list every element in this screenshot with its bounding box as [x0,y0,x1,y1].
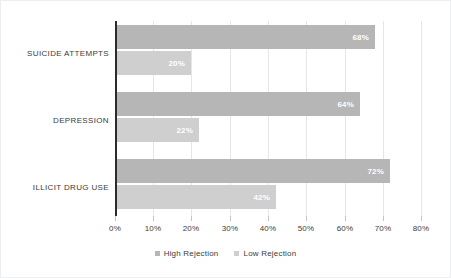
x-axis: 0% 10% 20% 30% 40% 50% 60% 70% 80% [115,216,421,238]
xtick-label-70: 70% [375,224,392,233]
xtick-label-60: 60% [337,224,354,233]
category-label-depression: DEPRESSION [53,116,109,125]
bar-low-rejection-depression: 22% [115,118,199,142]
legend-item-low-rejection: Low Rejection [234,249,296,258]
y-axis-line [115,21,117,216]
legend: High Rejection Low Rejection [1,249,450,258]
bar-high-rejection-suicide-attempts: 68% [115,25,375,49]
xtick-label-20: 20% [183,224,200,233]
bar-high-rejection-depression: 64% [115,92,360,116]
bar-low-rejection-illicit-drug-use: 42% [115,185,276,209]
xtick-label-80: 80% [413,224,430,233]
category-axis: SUICIDE ATTEMPTS DEPRESSION ILLICIT DRUG… [1,1,109,278]
gridline-70 [383,21,384,216]
category-label-illicit-drug-use: ILLICIT DRUG USE [33,183,109,192]
legend-item-high-rejection: High Rejection [155,249,219,258]
gridline-60 [345,21,346,216]
gridline-80 [421,21,422,216]
xtick-label-30: 30% [222,224,239,233]
bar-high-rejection-illicit-drug-use: 72% [115,159,390,183]
xtick-label-0: 0% [109,224,121,233]
bar-value-label: 68% [352,33,375,42]
bar-value-label: 64% [337,100,360,109]
bar-chart: SUICIDE ATTEMPTS DEPRESSION ILLICIT DRUG… [0,0,451,278]
bar-value-label: 72% [367,167,390,176]
category-label-suicide-attempts: SUICIDE ATTEMPTS [27,49,109,58]
xtick-label-10: 10% [145,224,162,233]
bar-value-label: 22% [176,126,199,135]
xtick-label-50: 50% [298,224,315,233]
bar-value-label: 42% [253,193,276,202]
xtick-label-40: 40% [260,224,277,233]
legend-label-low-rejection: Low Rejection [243,249,296,258]
legend-swatch-icon [155,251,160,256]
plot-area: 68% 20% 64% 22% 72% 42% [115,21,421,216]
gridline-50 [306,21,307,216]
bar-low-rejection-suicide-attempts: 20% [115,51,191,75]
bar-value-label: 20% [168,59,191,68]
legend-label-high-rejection: High Rejection [164,249,219,258]
legend-swatch-icon [234,251,239,256]
